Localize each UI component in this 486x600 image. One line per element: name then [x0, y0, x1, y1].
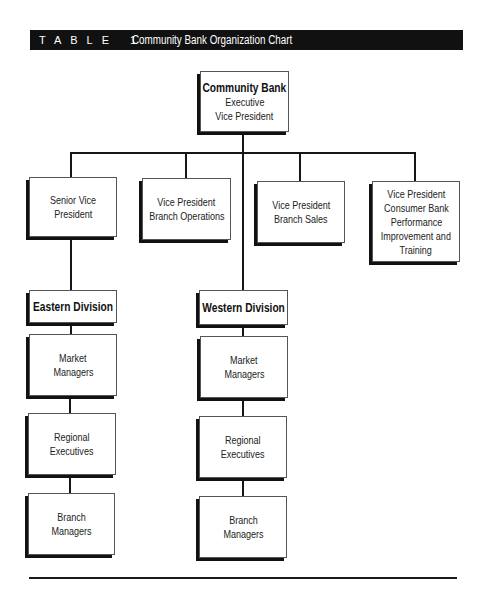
node-line: Improvement and	[381, 229, 451, 243]
node-line: Performance	[390, 215, 442, 229]
connector-eastern-1	[70, 323, 72, 334]
node-line: Branch	[57, 510, 86, 524]
node-eastern-branch-managers: Branch Managers	[28, 493, 115, 555]
node-line: Executive	[225, 95, 264, 109]
connector-senior-vp-to-eastern	[70, 237, 72, 290]
node-eastern-regional-executives: Regional Executives	[28, 413, 116, 475]
node-line: Market	[230, 353, 258, 367]
node-line: Vice President	[215, 109, 273, 123]
node-western-market-managers: Market Managers	[200, 336, 288, 398]
node-title: Western Division	[202, 301, 285, 315]
node-line: Vice President	[272, 198, 330, 212]
node-vp-consumer-bank: Vice President Consumer Bank Performance…	[372, 181, 460, 262]
node-western-regional-executives: Regional Executives	[199, 416, 287, 478]
node-line: Branch Operations	[149, 209, 224, 223]
node-line: Managers	[223, 527, 263, 541]
node-line: Training	[400, 243, 432, 257]
node-line: Managers	[224, 367, 264, 381]
node-vp-branch-sales: Vice President Branch Sales	[257, 181, 345, 243]
connector-consumer-bank-up	[414, 152, 416, 181]
node-title: Community Bank	[203, 81, 287, 95]
connector-branch-sales-up	[299, 152, 301, 181]
node-western-division: Western Division	[199, 290, 288, 325]
connector-western-1	[242, 325, 244, 336]
node-eastern-division: Eastern Division	[29, 290, 117, 323]
connector-western-3	[242, 478, 244, 496]
node-executive-vp: Community Bank Executive Vice President	[200, 71, 289, 132]
bottom-rule-divider	[29, 577, 457, 579]
connector-eastern-3	[69, 475, 71, 493]
node-line: President	[54, 207, 92, 221]
node-vp-branch-operations: Vice President Branch Operations	[142, 178, 231, 240]
connector-root-down	[242, 132, 244, 290]
node-line: Executives	[221, 447, 265, 461]
node-line: Branch Sales	[274, 212, 328, 226]
node-senior-vp: Senior Vice President	[29, 177, 117, 237]
node-line: Vice President	[387, 187, 445, 201]
connector-horizontal-bar	[70, 152, 416, 154]
node-line: Vice President	[157, 195, 215, 209]
node-line: Consumer Bank	[384, 201, 449, 215]
connector-western-2	[242, 398, 244, 416]
node-line: Managers	[51, 524, 91, 538]
node-line: Managers	[53, 365, 93, 379]
table-title: Community Bank Organization Chart	[132, 33, 292, 47]
node-eastern-market-managers: Market Managers	[29, 334, 117, 396]
node-line: Market	[59, 351, 87, 365]
connector-senior-vp-up	[70, 152, 72, 177]
node-line: Regional	[225, 433, 261, 447]
connector-eastern-2	[69, 396, 71, 413]
node-title: Eastern Division	[33, 300, 113, 314]
node-line: Regional	[54, 430, 90, 444]
table-label: TABLE 1	[39, 34, 132, 46]
table-header-bar: TABLE 1 Community Bank Organization Char…	[30, 30, 463, 50]
node-western-branch-managers: Branch Managers	[199, 496, 287, 558]
connector-branch-ops-up	[185, 152, 187, 178]
node-line: Executives	[50, 444, 94, 458]
node-line: Senior Vice	[50, 193, 96, 207]
node-line: Branch	[229, 513, 258, 527]
